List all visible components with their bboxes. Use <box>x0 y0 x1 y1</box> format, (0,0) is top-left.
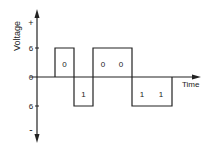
x-axis-label: Time <box>182 80 200 89</box>
y-axis-minus-sign: - <box>29 124 32 135</box>
y-axis-down-arrow-icon <box>35 134 40 143</box>
y-axis-up-arrow-icon <box>35 9 40 18</box>
bit-label: 1 <box>159 90 164 99</box>
y-axis-label: Voltage <box>12 21 22 51</box>
bit-label: 1 <box>81 90 86 99</box>
waveform-diagram: Voltage + - 6 0 6 Time 0 1 0 0 1 1 <box>0 0 213 151</box>
bit-label: 0 <box>119 60 124 69</box>
x-axis-arrow-icon <box>192 75 201 80</box>
bit-label: 1 <box>140 90 145 99</box>
bit-label: 0 <box>101 60 106 69</box>
y-axis-plus-sign: + <box>28 18 33 28</box>
bit-label: 0 <box>62 60 67 69</box>
tick-label-plus6: 6 <box>29 44 34 53</box>
tick-label-minus6: 6 <box>29 102 34 111</box>
tick-label-zero: 0 <box>29 73 34 82</box>
